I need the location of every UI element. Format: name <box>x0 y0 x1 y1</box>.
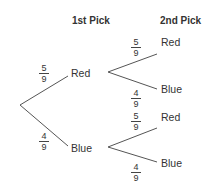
prob-blue-blue: 4 9 <box>131 162 141 183</box>
prob-first-blue: 4 9 <box>39 131 49 152</box>
prob-red-red: 5 9 <box>131 37 141 58</box>
label-red-red: Red <box>161 36 180 48</box>
label-blue-blue: Blue <box>161 157 182 169</box>
label-first-blue: Blue <box>71 142 92 154</box>
header-first-pick: 1st Pick <box>72 15 110 26</box>
prob-red-blue: 4 9 <box>131 88 141 109</box>
label-first-red: Red <box>71 67 90 79</box>
label-blue-red: Red <box>161 111 180 123</box>
branch-blue-blue <box>108 147 157 162</box>
prob-blue-red: 5 9 <box>131 111 141 132</box>
label-red-blue: Blue <box>161 83 182 95</box>
header-second-pick: 2nd Pick <box>160 15 201 26</box>
branch-red-blue <box>108 72 157 89</box>
prob-first-red: 5 9 <box>39 63 49 84</box>
